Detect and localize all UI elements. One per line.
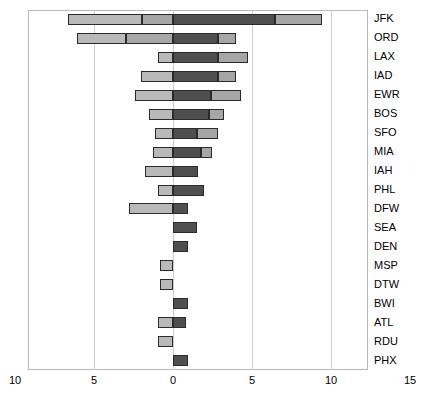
- bar-segment-PHL-low: [158, 185, 173, 196]
- category-label-ATL: ATL: [374, 316, 393, 328]
- category-label-MSP: MSP: [374, 259, 398, 271]
- bar-segment-DFW-inner-high: [173, 203, 188, 214]
- bar-segment-ORD-inner-high: [173, 33, 218, 44]
- bar-segment-BWI-inner-high: [173, 298, 188, 309]
- x-tick-label-15-5: 15: [390, 374, 430, 386]
- bar-segment-JFK-high: [275, 14, 322, 25]
- category-label-LAX: LAX: [374, 50, 395, 62]
- category-label-PHX: PHX: [374, 354, 397, 366]
- category-label-DEN: DEN: [374, 240, 397, 252]
- category-label-RDU: RDU: [374, 335, 398, 347]
- category-label-SEA: SEA: [374, 221, 396, 233]
- bar-segment-DTW-low: [160, 279, 173, 290]
- bar-segment-IAD-inner-high: [173, 71, 218, 82]
- x-tick-label-5-3: 5: [232, 374, 272, 386]
- category-label-BWI: BWI: [374, 297, 395, 309]
- bar-segment-EWR-low: [135, 90, 173, 101]
- bar-segment-JFK-inner-high: [173, 14, 275, 25]
- category-label-DTW: DTW: [374, 278, 399, 290]
- bar-segment-ATL-low: [158, 317, 173, 328]
- bar-segment-IAH-inner-high: [173, 166, 198, 177]
- bar-segment-ORD-inner-low: [126, 33, 173, 44]
- bar-segment-ORD-high: [218, 33, 236, 44]
- category-label-IAD: IAD: [374, 69, 392, 81]
- bar-segment-ATL-inner-high: [173, 317, 186, 328]
- gridline-10: [331, 10, 332, 370]
- bar-segment-ORD-low: [77, 33, 126, 44]
- category-label-BOS: BOS: [374, 107, 397, 119]
- bar-segment-SEA-inner-high: [173, 222, 197, 233]
- x-tick-label-10-0: 10: [0, 374, 35, 386]
- category-label-ORD: ORD: [374, 31, 398, 43]
- bar-segment-SFO-low: [155, 128, 173, 139]
- bar-segment-EWR-inner-high: [173, 90, 211, 101]
- bar-segment-LAX-low: [158, 52, 173, 63]
- category-label-PHL: PHL: [374, 183, 395, 195]
- gridline-5: [252, 10, 253, 370]
- bar-segment-IAH-low: [145, 166, 173, 177]
- category-label-IAH: IAH: [374, 164, 392, 176]
- x-tick-label-0-2: 0: [153, 374, 193, 386]
- x-tick-label-10-4: 10: [311, 374, 351, 386]
- category-label-JFK: JFK: [374, 12, 394, 24]
- bar-segment-BOS-high: [209, 109, 224, 120]
- bar-segment-IAD-low: [141, 71, 173, 82]
- bar-segment-DEN-inner-high: [173, 241, 188, 252]
- bar-segment-MIA-inner-high: [173, 147, 201, 158]
- bar-segment-LAX-high: [218, 52, 248, 63]
- gridline-5: [94, 10, 95, 370]
- bar-segment-MSP-low: [160, 260, 173, 271]
- bar-segment-SFO-high: [197, 128, 218, 139]
- category-label-DFW: DFW: [374, 202, 399, 214]
- category-label-MIA: MIA: [374, 145, 394, 157]
- bar-segment-JFK-inner-low: [142, 14, 173, 25]
- bar-segment-LAX-inner-high: [173, 52, 218, 63]
- bar-segment-DFW-low: [129, 203, 173, 214]
- bar-segment-MIA-low: [153, 147, 173, 158]
- bar-segment-JFK-low: [68, 14, 142, 25]
- diverging-bar-chart: 105051015 JFKORDLAXIADEWRBOSSFOMIAIAHPHL…: [0, 0, 442, 399]
- category-label-SFO: SFO: [374, 126, 397, 138]
- bar-segment-IAD-high: [218, 71, 236, 82]
- bar-segment-MIA-high: [201, 147, 213, 158]
- bar-segment-BOS-inner-high: [173, 109, 209, 120]
- category-label-EWR: EWR: [374, 88, 400, 100]
- bar-segment-EWR-high: [211, 90, 241, 101]
- bar-segment-BOS-low: [149, 109, 173, 120]
- bar-segment-PHX-inner-high: [173, 355, 188, 366]
- x-tick-label-5-1: 5: [74, 374, 114, 386]
- bar-segment-SFO-inner-high: [173, 128, 197, 139]
- bar-segment-RDU-low: [158, 336, 173, 347]
- bar-segment-PHL-inner-high: [173, 185, 204, 196]
